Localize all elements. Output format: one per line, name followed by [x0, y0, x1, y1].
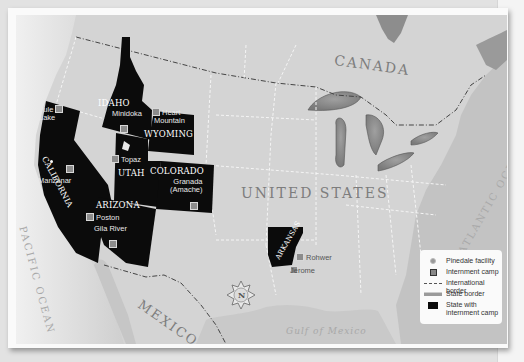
label-idaho: IDAHO	[98, 98, 130, 108]
legend-label: State withinternment camp	[446, 301, 498, 317]
legend-item-state-with-camp: State withinternment camp	[424, 301, 498, 317]
camp-poston-label: Poston	[96, 213, 119, 222]
camp-tule-lake: Tule Lake	[39, 105, 65, 122]
camp-square-icon	[111, 155, 119, 163]
legend-item-pinedale: Pinedale facility	[424, 257, 495, 265]
pinedale-dot-icon	[424, 257, 442, 265]
pinedale-facility-dot-icon	[50, 160, 53, 163]
camp-gila-river-marker	[109, 233, 119, 251]
gulf-of-st-lawrence	[476, 30, 507, 70]
legend-label: Pinedale facility	[446, 257, 495, 265]
lake-ontario	[411, 132, 438, 145]
label-gulf-of-mexico: Gulf of Mexico	[286, 326, 367, 336]
label-wyoming: WYOMING	[144, 129, 193, 139]
camp-granada-marker	[190, 195, 200, 213]
label-utah: UTAH	[118, 168, 145, 178]
camp-states	[38, 37, 303, 267]
camp-poston: Poston	[86, 213, 119, 222]
camp-granada: Granada (Amache)	[170, 178, 203, 194]
map-legend: Pinedale facility Internment camp Intern…	[420, 250, 502, 324]
label-united-states: UNITED STATES	[241, 185, 388, 201]
legend-label: Internment camp	[446, 268, 499, 276]
camp-square-icon	[190, 202, 198, 210]
compass-north-letter: N	[238, 290, 245, 300]
camp-square-icon	[86, 213, 94, 221]
legend-label-line-1: State with	[446, 301, 477, 308]
camp-square-icon	[66, 165, 74, 173]
camp-manzanar: Manzanar	[38, 177, 71, 185]
camp-square-icon	[55, 105, 63, 113]
label-arizona: ARIZONA	[96, 200, 140, 210]
gulf-of-mexico	[196, 305, 396, 344]
internment-camp-square-icon	[424, 268, 442, 276]
camp-minidoka: Minidoka	[112, 110, 142, 118]
camp-rohwer-label: Rohwer	[306, 253, 332, 262]
camp-heart-mountain: Heart Mountain	[152, 108, 185, 125]
legend-item-state-border: State border	[424, 290, 485, 298]
legend-item-internment-camp: Internment camp	[424, 268, 499, 276]
camp-tule-lake-label-2: Lake	[39, 113, 55, 122]
lake-michigan	[336, 118, 346, 167]
camp-square-icon	[120, 125, 128, 133]
state-with-camp-box-icon	[424, 301, 442, 309]
camp-topaz-label: Topaz	[121, 155, 141, 164]
camp-gila-river: Gila River	[94, 225, 127, 233]
legend-label: State border	[446, 290, 485, 298]
camp-heart-mountain-label-2: Mountain	[154, 116, 185, 125]
camp-rohwer: Rohwer	[296, 253, 332, 262]
camp-granada-label-2: (Amache)	[170, 185, 203, 194]
camp-square-icon	[109, 240, 117, 248]
label-colorado: COLORADO	[150, 166, 204, 176]
camp-jerome: Jerome	[290, 267, 315, 275]
state-border-line-icon	[424, 290, 442, 298]
camp-square-icon	[152, 108, 160, 116]
legend-label-line-2: internment camp	[446, 309, 498, 316]
hudson-bay	[376, 15, 408, 43]
international-border-line-icon	[424, 279, 442, 287]
lake-erie	[378, 153, 414, 171]
camp-minidoka-marker	[120, 118, 130, 136]
camp-manzanar-marker	[66, 165, 76, 174]
lake-huron	[366, 115, 384, 155]
camp-topaz: Topaz	[111, 155, 141, 164]
